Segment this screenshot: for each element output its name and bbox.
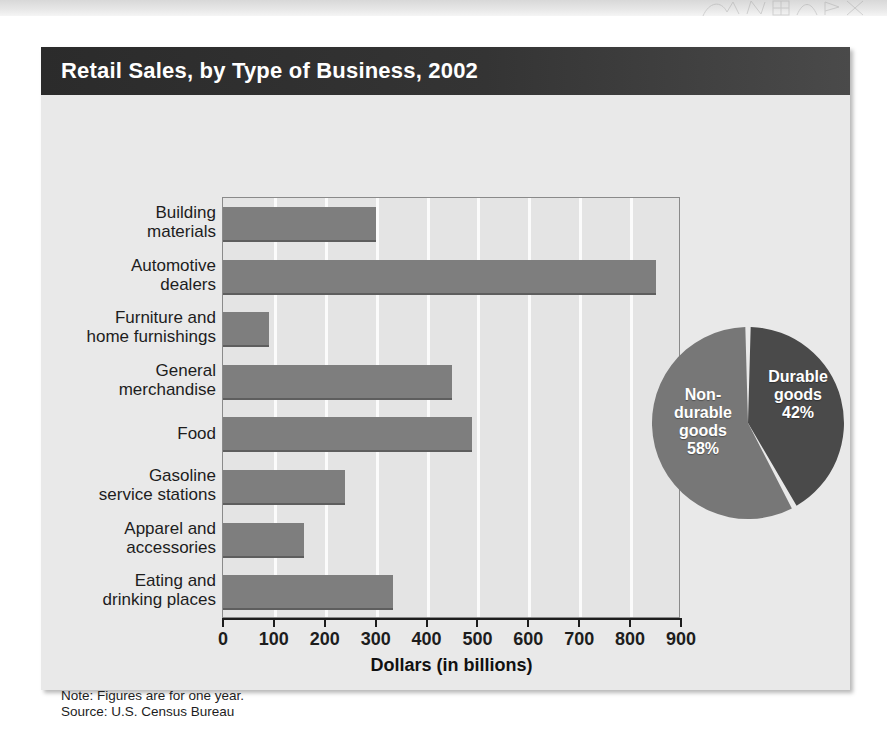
source-line: Source: U.S. Census Bureau [61, 704, 244, 720]
category-label-furniture-home-furnishings: Furniture and home furnishings [6, 308, 216, 346]
category-label-general-merchandise: General merchandise [6, 361, 216, 399]
x-tick-200 [324, 618, 326, 627]
category-label-automotive-dealers: Automotive dealers [6, 256, 216, 294]
x-tick-800 [629, 618, 631, 627]
pie-label-nondurable-goods: Non- durable goods 58% [657, 386, 749, 458]
chart-body: Building materials Automotive dealers Fu… [41, 95, 850, 690]
x-axis-title: Dollars (in billions) [222, 655, 681, 676]
category-label-building-materials: Building materials [6, 203, 216, 241]
x-tick-500 [476, 618, 478, 627]
bar-apparel-accessories[interactable] [223, 523, 304, 558]
plot-area [222, 197, 680, 618]
x-tick-700 [578, 618, 580, 627]
x-tick-300 [375, 618, 377, 627]
page-top-band [0, 0, 887, 16]
page-margin-doodle [699, 0, 869, 18]
figure-card: Retail Sales, by Type of Business, 2002 … [41, 47, 850, 690]
x-axis-line [222, 618, 681, 620]
bar-eating-drinking-places[interactable] [223, 575, 393, 610]
chart-header-bar: Retail Sales, by Type of Business, 2002 [41, 47, 850, 95]
bar-gasoline-service-stations[interactable] [223, 470, 345, 505]
category-label-eating-drinking-places: Eating and drinking places [6, 571, 216, 609]
bar-general-merchandise[interactable] [223, 365, 452, 400]
x-tick-0 [222, 618, 224, 627]
category-label-food: Food [6, 424, 216, 443]
x-tick-900 [680, 618, 682, 627]
category-label-apparel-accessories: Apparel and accessories [6, 519, 216, 557]
x-tick-label-900: 900 [651, 629, 711, 650]
footnotes: Note: Figures are for one year. Source: … [61, 688, 244, 720]
bar-building-materials[interactable] [223, 207, 376, 242]
bar-automotive-dealers[interactable] [223, 260, 656, 295]
note-line: Note: Figures are for one year. [61, 688, 244, 704]
x-tick-400 [426, 618, 428, 627]
bar-furniture-home-furnishings[interactable] [223, 312, 269, 347]
bar-food[interactable] [223, 417, 472, 452]
pie-chart: Durable goods 42% Non- durable goods 58% [651, 326, 845, 520]
x-tick-600 [527, 618, 529, 627]
category-label-gasoline-service-stations: Gasoline service stations [6, 466, 216, 504]
chart-title: Retail Sales, by Type of Business, 2002 [61, 58, 478, 84]
pie-label-durable-goods: Durable goods 42% [755, 368, 841, 422]
x-tick-100 [273, 618, 275, 627]
